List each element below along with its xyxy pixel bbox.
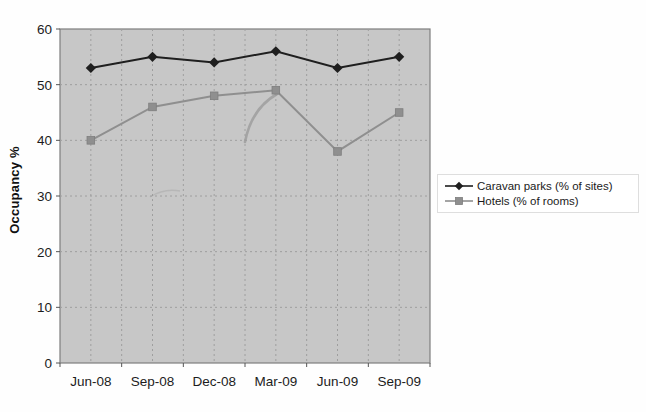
legend-item: Hotels (% of rooms)	[444, 195, 634, 207]
y-tick-label: 30	[18, 190, 52, 204]
x-tick-label: Sep-08	[120, 375, 186, 389]
legend-label: Caravan parks (% of sites)	[477, 180, 613, 192]
x-tick-label: Mar-09	[243, 375, 309, 389]
data-point-square	[334, 148, 342, 156]
y-tick-label: 40	[18, 134, 52, 148]
data-point-square	[149, 103, 157, 111]
data-point-square	[272, 86, 280, 94]
legend-square-marker-icon	[444, 195, 474, 207]
y-tick-label: 60	[18, 23, 52, 37]
x-tick-label: Jun-09	[305, 375, 371, 389]
data-point-square	[87, 137, 95, 145]
legend-label: Hotels (% of rooms)	[477, 195, 579, 207]
y-tick-label: 10	[18, 301, 52, 315]
x-tick-label: Dec-08	[181, 375, 247, 389]
y-tick-label: 0	[18, 357, 52, 371]
x-tick-label: Jun-08	[58, 375, 124, 389]
data-point-square	[210, 92, 218, 100]
legend-item: Caravan parks (% of sites)	[444, 180, 634, 192]
x-tick-label: Sep-09	[366, 375, 432, 389]
y-tick-label: 20	[18, 246, 52, 260]
chart-legend: Caravan parks (% of sites)Hotels (% of r…	[437, 174, 639, 213]
data-point-square	[395, 109, 403, 117]
legend-diamond-marker-icon	[444, 180, 474, 192]
y-tick-label: 50	[18, 79, 52, 93]
chart-figure: Occupancy % 0102030405060 Jun-08Sep-08De…	[0, 0, 646, 412]
